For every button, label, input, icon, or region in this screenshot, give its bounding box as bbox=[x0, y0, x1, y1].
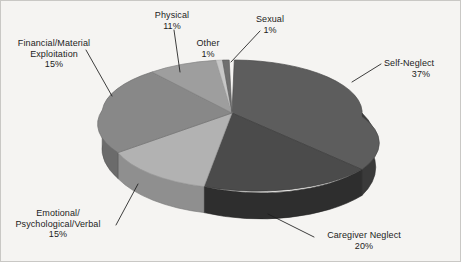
slice-label-sexual-name: Sexual bbox=[246, 14, 294, 25]
slice-label-self-neglect-percent: 37% bbox=[384, 69, 458, 80]
slice-label-emotional-line1: Emotional/ bbox=[2, 208, 114, 219]
slice-label-caregiver-neglect-name: Caregiver Neglect bbox=[316, 230, 412, 241]
slice-label-emotional: Emotional/ Psychological/Verbal 15% bbox=[2, 208, 114, 240]
slice-label-sexual-percent: 1% bbox=[246, 25, 294, 36]
slice-label-sexual: Sexual 1% bbox=[246, 14, 294, 35]
slice-label-other: Other 1% bbox=[186, 38, 230, 59]
leader-line-self-neglect bbox=[352, 64, 381, 82]
slice-label-self-neglect-name: Self-Neglect bbox=[384, 58, 458, 69]
leader-line-sexual bbox=[231, 31, 260, 62]
slice-label-other-percent: 1% bbox=[186, 49, 230, 60]
slice-label-other-name: Other bbox=[186, 38, 230, 49]
leader-line-emotional bbox=[116, 184, 138, 225]
slice-label-emotional-percent: 15% bbox=[2, 229, 114, 240]
slice-label-caregiver-neglect: Caregiver Neglect 20% bbox=[316, 230, 412, 251]
slice-label-caregiver-neglect-percent: 20% bbox=[316, 241, 412, 252]
slice-label-financial-line2: Exploitation bbox=[6, 49, 102, 60]
slice-label-physical-name: Physical bbox=[142, 10, 202, 21]
slice-label-financial-percent: 15% bbox=[6, 59, 102, 70]
slice-label-physical-percent: 11% bbox=[142, 21, 202, 32]
slice-label-emotional-line2: Psychological/Verbal bbox=[2, 219, 114, 230]
pie-chart-figure: Financial/Material Exploitation 15% Phys… bbox=[0, 0, 461, 262]
slice-label-financial-line1: Financial/Material bbox=[6, 38, 102, 49]
slice-label-financial: Financial/Material Exploitation 15% bbox=[6, 38, 102, 70]
slice-label-physical: Physical 11% bbox=[142, 10, 202, 31]
slice-label-self-neglect: Self-Neglect 37% bbox=[384, 58, 458, 79]
